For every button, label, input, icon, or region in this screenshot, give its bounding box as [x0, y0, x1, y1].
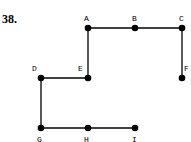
node-C: [179, 25, 186, 32]
node-label-H: H: [84, 135, 89, 142]
node-B: [132, 25, 139, 32]
node-label-D: D: [32, 64, 37, 73]
node-F: [179, 75, 186, 82]
node-label-E: E: [78, 64, 83, 73]
node-H: [85, 125, 92, 132]
node-label-B: B: [132, 14, 137, 23]
node-label-C: C: [179, 14, 184, 23]
node-E: [85, 75, 92, 82]
node-label-A: A: [84, 14, 89, 23]
node-label-G: G: [37, 135, 42, 142]
node-G: [38, 125, 45, 132]
node-D: [38, 75, 45, 82]
node-I: [132, 125, 139, 132]
graph-diagram: ABCDEFGHI: [0, 0, 191, 142]
node-label-I: I: [132, 135, 137, 142]
node-label-F: F: [184, 64, 189, 73]
node-A: [85, 25, 92, 32]
